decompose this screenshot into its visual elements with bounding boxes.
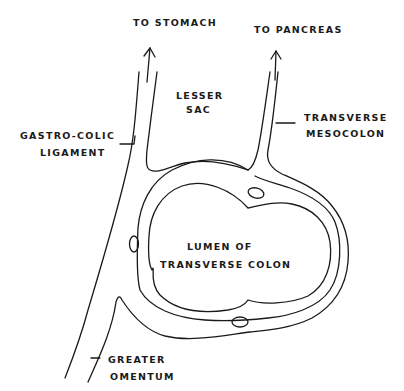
gastro-colic-inner-line — [146, 72, 248, 171]
label-lesser-sac-line2: SAC — [186, 104, 211, 115]
node-top-right — [247, 186, 265, 200]
label-greater-omentum-line1: GREATER — [108, 354, 166, 365]
node-bottom — [232, 317, 248, 327]
label-transverse-mesocolon-line1: TRANSVERSE — [304, 112, 387, 123]
label-greater-omentum-line2: OMENTUM — [110, 371, 175, 382]
mesocolon-left-line — [248, 72, 270, 170]
label-lumen-line1: LUMEN OF — [187, 241, 253, 252]
label-lesser-sac-line1: LESSER — [176, 90, 223, 101]
label-gastro-colic-line1: GASTRO-COLIC — [20, 130, 115, 141]
diagram-svg: TO STOMACH TO PANCREAS LESSER SAC GASTRO… — [0, 0, 404, 391]
anatomy-diagram: TO STOMACH TO PANCREAS LESSER SAC GASTRO… — [0, 0, 404, 391]
label-transverse-mesocolon-line2: MESOCOLON — [306, 128, 385, 139]
label-gastro-colic-line2: LIGAMENT — [40, 147, 106, 158]
label-lumen-line2: TRANSVERSE COLON — [160, 259, 291, 270]
gastro-colic-outer-line — [65, 72, 139, 378]
label-to-pancreas: TO PANCREAS — [254, 24, 343, 35]
label-to-stomach: TO STOMACH — [133, 17, 217, 28]
arrow-to-stomach-icon — [144, 48, 155, 82]
arrow-to-pancreas-icon — [271, 51, 281, 80]
